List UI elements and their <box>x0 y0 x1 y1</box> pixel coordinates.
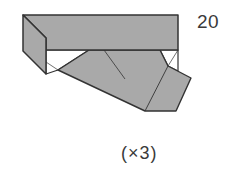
step-number: 20 <box>197 11 219 33</box>
repeat-instruction: (×3) <box>121 143 158 164</box>
folded-paper-model <box>23 15 191 111</box>
